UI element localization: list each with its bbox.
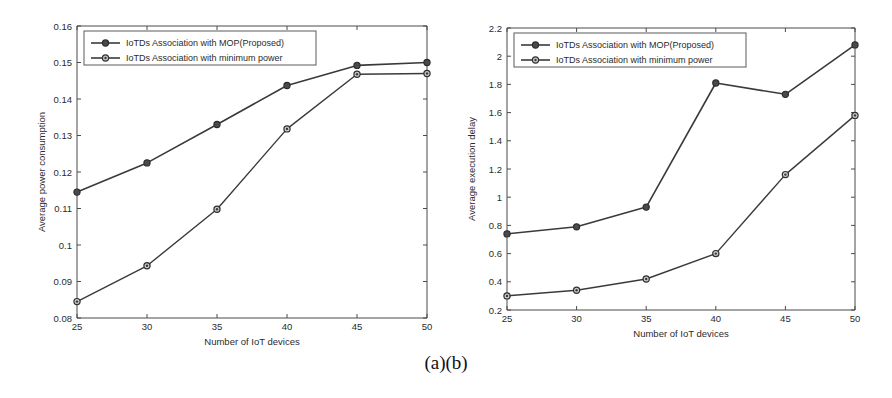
- x-tick-label: 30: [142, 321, 153, 332]
- y-tick-label: 1.8: [489, 79, 502, 90]
- data-point-marker: [214, 121, 220, 127]
- data-point-marker: [424, 59, 430, 65]
- y-tick-label: 0.16: [54, 21, 73, 32]
- data-point-center: [784, 173, 786, 175]
- y-tick-label: 0.6: [489, 248, 502, 259]
- y-tick-label: 0.8: [489, 220, 502, 231]
- legend-swatch-marker-1: [532, 42, 538, 48]
- x-tick-label: 50: [850, 313, 861, 324]
- data-point-marker: [284, 82, 290, 88]
- x-tick-label: 35: [212, 321, 223, 332]
- x-tick-label: 40: [711, 313, 722, 324]
- legend-swatch-center: [104, 57, 106, 59]
- x-tick-label: 25: [502, 313, 513, 324]
- data-point-marker: [782, 91, 788, 97]
- x-tick-label: 50: [422, 321, 433, 332]
- series-line-1: [507, 45, 855, 234]
- data-point-center: [645, 278, 647, 280]
- legend-label-2: IoTDs Association with minimum power: [556, 55, 713, 65]
- legend-label-1: IoTDs Association with MOP(Proposed): [556, 40, 714, 50]
- y-tick-label: 0.4: [489, 276, 502, 287]
- x-tick-label: 45: [780, 313, 791, 324]
- data-point-marker: [713, 80, 719, 86]
- legend-label-2: IoTDs Association with minimum power: [126, 53, 283, 63]
- data-point-marker: [643, 204, 649, 210]
- y-tick-label: 0.12: [54, 167, 73, 178]
- legend-swatch-center: [534, 59, 536, 61]
- x-axis-label: Number of IoT devices: [204, 336, 300, 347]
- data-point-center: [76, 300, 78, 302]
- x-tick-label: 35: [641, 313, 652, 324]
- data-point-center: [506, 295, 508, 297]
- y-tick-label: 1: [497, 192, 502, 203]
- legend-label-1: IoTDs Association with MOP(Proposed): [126, 38, 284, 48]
- data-point-center: [854, 114, 856, 116]
- y-tick-label: 0.09: [54, 276, 73, 287]
- chart-b-svg: 0.20.40.60.811.21.41.61.822.225303540455…: [446, 0, 892, 360]
- x-tick-label: 45: [352, 321, 363, 332]
- y-axis-label: Average power consumption: [36, 112, 47, 232]
- data-point-marker: [504, 231, 510, 237]
- data-point-marker: [74, 189, 80, 195]
- x-tick-label: 25: [72, 321, 83, 332]
- data-point-center: [575, 289, 577, 291]
- y-tick-label: 0.2: [489, 305, 502, 316]
- series-line-2: [77, 74, 427, 302]
- y-tick-label: 0.14: [54, 94, 73, 105]
- series-line-2: [507, 115, 855, 296]
- data-point-center: [356, 73, 358, 75]
- data-point-center: [216, 208, 218, 210]
- data-point-center: [286, 128, 288, 130]
- data-point-marker: [354, 62, 360, 68]
- data-point-center: [146, 265, 148, 267]
- data-point-marker: [852, 42, 858, 48]
- y-tick-label: 0.13: [54, 130, 73, 141]
- chart-panel-b: 0.20.40.60.811.21.41.61.822.225303540455…: [446, 0, 892, 360]
- data-point-marker: [574, 224, 580, 230]
- legend-swatch-marker-1: [102, 40, 108, 46]
- axis-box: [507, 28, 855, 310]
- y-axis-label: Average execution delay: [466, 117, 477, 221]
- y-tick-label: 0.08: [54, 313, 73, 324]
- chart-panel-a: 0.080.090.10.110.120.130.140.150.1625303…: [0, 0, 446, 360]
- y-tick-label: 1.4: [489, 135, 502, 146]
- chart-a-svg: 0.080.090.10.110.120.130.140.150.1625303…: [0, 0, 446, 360]
- data-point-center: [715, 252, 717, 254]
- x-axis-label: Number of IoT devices: [633, 328, 729, 339]
- x-tick-label: 40: [282, 321, 293, 332]
- x-tick-label: 30: [571, 313, 582, 324]
- figure-container: 0.080.090.10.110.120.130.140.150.1625303…: [0, 0, 892, 398]
- y-tick-label: 2.2: [489, 23, 502, 34]
- figure-caption: (a)(b): [0, 352, 892, 374]
- y-tick-label: 2: [497, 51, 502, 62]
- y-tick-label: 0.11: [54, 203, 72, 214]
- data-point-marker: [144, 160, 150, 166]
- y-tick-label: 1.6: [489, 107, 502, 118]
- y-tick-label: 1.2: [489, 164, 502, 175]
- y-tick-label: 0.1: [59, 240, 72, 251]
- data-point-center: [426, 72, 428, 74]
- y-tick-label: 0.15: [54, 57, 73, 68]
- series-line-1: [77, 63, 427, 193]
